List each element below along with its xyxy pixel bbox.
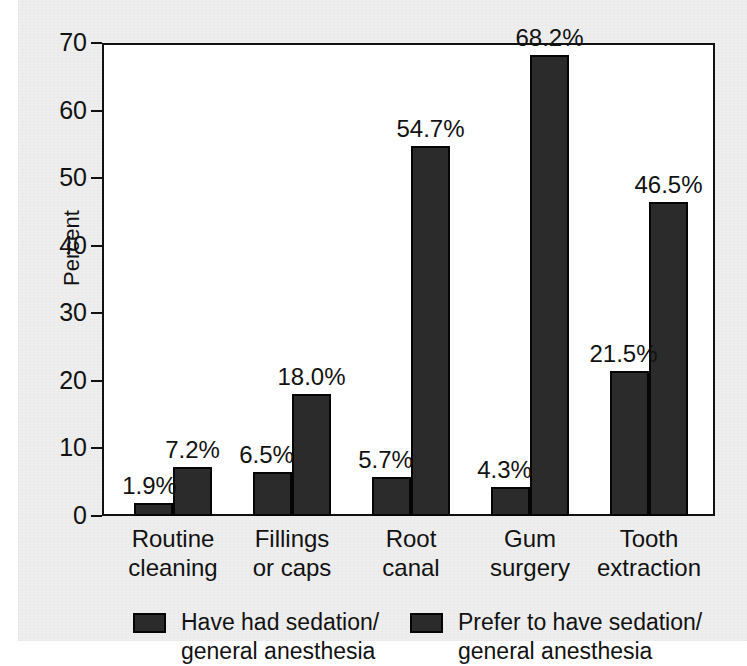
bar — [530, 55, 569, 516]
bar — [372, 477, 411, 516]
y-tick-label: 10 — [59, 434, 87, 461]
bar-value-label: 1.9% — [95, 473, 205, 499]
y-tick-mark — [91, 447, 102, 449]
x-axis-group-label: Toothextraction — [564, 524, 734, 582]
bar-value-label: 6.5% — [212, 442, 322, 468]
bar — [491, 487, 530, 516]
bar-value-label: 68.2% — [495, 25, 605, 51]
y-tick-mark — [91, 380, 102, 382]
bar — [134, 503, 173, 516]
legend-swatch — [410, 613, 443, 633]
y-tick-label: 40 — [59, 232, 87, 259]
y-tick-mark — [91, 312, 102, 314]
bar-value-label: 54.7% — [376, 116, 486, 142]
y-tick-label: 20 — [59, 367, 87, 394]
legend-item[interactable]: Have had sedation/ general anesthesia — [133, 608, 379, 666]
bar-value-label: 5.7% — [331, 447, 441, 473]
bar-value-label: 4.3% — [450, 457, 560, 483]
bar-value-label: 46.5% — [614, 172, 724, 198]
y-tick-label: 50 — [59, 164, 87, 191]
legend-label: Have had sedation/ general anesthesia — [181, 608, 379, 666]
y-tick-mark — [91, 110, 102, 112]
x-label-line-2: extraction — [564, 553, 734, 582]
y-tick-label: 0 — [73, 502, 87, 529]
y-tick-mark — [91, 515, 102, 517]
x-label-line-1: Tooth — [564, 524, 734, 553]
bar-value-label: 18.0% — [257, 364, 367, 390]
bar — [253, 472, 292, 516]
legend-label: Prefer to have sedation/ general anesthe… — [458, 608, 702, 666]
y-tick-label: 60 — [59, 97, 87, 124]
chart-legend: Have had sedation/ general anesthesiaPre… — [0, 600, 747, 660]
y-tick-label: 70 — [59, 29, 87, 56]
bar — [610, 371, 649, 516]
y-tick-mark — [91, 42, 102, 44]
y-tick-mark — [91, 245, 102, 247]
y-tick-mark — [91, 177, 102, 179]
legend-swatch — [133, 613, 166, 633]
y-tick-label: 30 — [59, 299, 87, 326]
bar-value-label: 21.5% — [569, 341, 679, 367]
legend-item[interactable]: Prefer to have sedation/ general anesthe… — [410, 608, 702, 666]
